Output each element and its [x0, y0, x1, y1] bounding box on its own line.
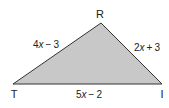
- side-ri-variable: x: [139, 42, 146, 53]
- side-rt-variable: x: [38, 39, 45, 50]
- side-label-ri: 2x+3: [134, 42, 160, 53]
- side-ri-operator: +: [147, 42, 153, 53]
- side-rt-constant: 3: [53, 39, 59, 50]
- triangle-shape: [13, 23, 162, 84]
- side-ti-operator: −: [89, 89, 95, 100]
- side-ri-constant: 3: [154, 42, 160, 53]
- vertex-label-r: R: [96, 8, 104, 20]
- triangle-diagram: R T I 4x−3 2x+3 5x−2: [0, 0, 169, 108]
- vertex-label-i: I: [160, 88, 163, 100]
- side-ti-constant: 2: [96, 89, 102, 100]
- side-rt-operator: −: [46, 39, 52, 50]
- vertex-label-t: T: [11, 88, 18, 100]
- side-label-rt: 4x−3: [33, 39, 59, 50]
- side-ti-variable: x: [81, 89, 88, 100]
- side-label-ti: 5x−2: [76, 89, 102, 100]
